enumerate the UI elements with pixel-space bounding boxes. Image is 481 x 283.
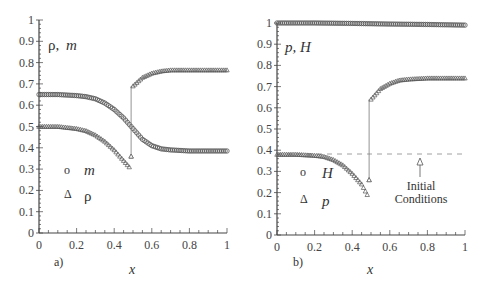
y-tick-label: 0 [266,228,272,242]
series-m [37,92,229,153]
x-tick-label: 0.8 [182,238,197,252]
panel-a-xlabel: x [128,262,136,277]
x-tick-label: 0 [36,238,42,252]
panel-a-legend-circle-icon: o [64,163,70,177]
x-tick-label: 0.4 [107,238,122,252]
y-tick-label: 0.7 [257,80,272,94]
y-tick-label: 0.2 [19,183,34,197]
x-tick-label: 0.2 [69,238,84,252]
panel-a-ylabel-m: m [66,37,77,53]
y-tick-label: 0.5 [257,122,272,136]
chart-canvas: 00.10.20.30.40.50.60.70.80.9100.20.40.60… [0,0,481,283]
x-tick-label: 0.8 [420,240,435,254]
y-tick-label: 0.6 [19,98,34,112]
panel-a-series [37,68,229,169]
y-tick-label: 0 [28,226,34,240]
x-tick-label: 1 [462,240,468,254]
panel-a-ylabel-rho: ρ, [48,37,59,53]
x-tick-label: 0.6 [144,238,159,252]
x-tick-label: 0.2 [307,240,322,254]
x-tick-label: 1 [224,238,230,252]
panel-b-chart: 00.10.20.30.40.50.60.70.80.9100.20.40.60… [257,16,468,277]
series-H [275,21,467,28]
panel-a-legend-m: m [84,162,95,178]
y-tick-label: 0.9 [19,34,34,48]
y-tick-label: 0.5 [19,120,34,134]
x-tick-label: 0 [274,240,280,254]
y-tick-label: 0.3 [19,162,34,176]
panel-b-legend-p: p [321,193,330,209]
y-tick-label: 1 [28,13,34,27]
panel-a-label: a) [54,255,63,269]
annotation-conditions: Conditions [395,192,448,206]
y-tick-label: 0.8 [257,58,272,72]
y-tick-label: 0.9 [257,37,272,51]
panel-b-ylabel-p: p, [284,39,296,55]
panel-b-legend-triangle-icon: Δ [300,192,308,206]
panel-b-legend-H: H [321,165,334,181]
y-tick-label: 0.1 [257,207,272,221]
x-tick-label: 0.6 [382,240,397,254]
y-tick-label: 0.3 [257,164,272,178]
panel-a-legend-rho: ρ [84,188,92,204]
series-ρ [37,68,229,169]
y-tick-label: 0.4 [19,141,34,155]
y-tick-label: 0.7 [19,77,34,91]
panel-b-xlabel: x [366,262,374,277]
y-tick-label: 0.1 [19,205,34,219]
y-tick-label: 1 [266,16,272,30]
x-tick-label: 0.4 [345,240,360,254]
annotation-initial: Initial [407,179,436,193]
y-tick-label: 0.6 [257,101,272,115]
initial-conditions-arrow-icon [417,158,423,177]
panel-b-legend-circle-icon: o [300,165,306,179]
panel-b-label: b) [293,255,303,269]
y-tick-label: 0.8 [19,56,34,70]
panel-b-ylabel-H: H [299,39,312,55]
panel-a-chart: 00.10.20.30.40.50.60.70.80.9100.20.40.60… [19,13,230,277]
y-tick-label: 0.2 [257,186,272,200]
panel-a-legend-triangle-icon: Δ [64,187,72,201]
y-tick-label: 0.4 [257,143,272,157]
